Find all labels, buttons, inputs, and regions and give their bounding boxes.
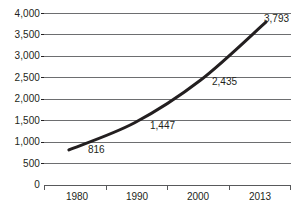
y-axis-label-2500: 2,500 [14,73,40,83]
x-axis-label-1990: 1990 [118,192,156,202]
x-axis-tick-end [290,185,291,190]
gridline-4000 [44,13,291,14]
series-line-svg [0,0,304,214]
data-label-816: 816 [88,145,105,155]
gridline-3500 [44,34,291,35]
y-axis-label-1500: 1,500 [14,116,40,126]
gridline-3000 [44,56,291,57]
x-axis-label-2013: 2013 [241,192,279,202]
x-axis-tick-2 [167,185,168,190]
x-axis-label-2000: 2000 [179,192,217,202]
x-axis-label-1980: 1980 [58,192,96,202]
data-label-3793: 3,793 [264,14,289,24]
gridline-2500 [44,77,291,78]
y-axis-label-1000: 1,000 [14,137,40,147]
data-label-1447: 1,447 [150,121,175,131]
y-axis-label-3500: 3,500 [14,30,40,40]
x-axis-tick-1 [106,185,107,190]
gridline-2000 [44,99,291,100]
x-axis-tick-start [44,185,45,190]
gridline-500 [44,163,291,164]
x-axis-tick-3 [229,185,230,190]
y-axis-label-4000: 4,000 [14,9,40,19]
y-axis-label-500: 500 [23,159,40,169]
y-axis-label-3000: 3,000 [14,51,40,61]
line-chart: 4,000 3,500 3,000 2,500 2,000 1,500 1,00… [0,0,304,214]
y-axis-label-2000: 2,000 [14,94,40,104]
gridline-1000 [44,142,291,143]
data-label-2435: 2,435 [212,77,237,87]
y-axis-label-0: 0 [34,180,40,190]
